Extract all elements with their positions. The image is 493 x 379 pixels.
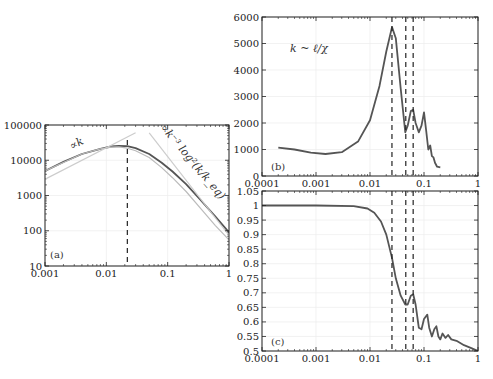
y-tick-label: 0.9 bbox=[243, 229, 259, 240]
y-tick-label: 10 bbox=[29, 261, 42, 272]
x-tick-label: 0.01 bbox=[359, 353, 381, 364]
x-tick-label: 0.1 bbox=[160, 268, 176, 279]
y-tick-label: 2000 bbox=[234, 118, 259, 129]
y-tick-label: 3000 bbox=[234, 91, 259, 102]
y-tick-label: 1 bbox=[253, 200, 259, 211]
y-tick-label: 5000 bbox=[234, 38, 259, 49]
panel-label: (c) bbox=[271, 336, 285, 347]
y-tick-label: 0 bbox=[253, 171, 259, 182]
panel-c-plot: 0.00010.0010.010.110.50.550.60.650.70.75… bbox=[237, 186, 481, 365]
x-tick-label: 0.1 bbox=[416, 178, 432, 189]
figure: 0.0010.010.1110100100010000100000∝k∝k⁻³ … bbox=[0, 0, 493, 379]
x-tick-label: 1 bbox=[475, 178, 481, 189]
panel-label: (b) bbox=[271, 161, 285, 172]
y-tick-label: 0.5 bbox=[243, 346, 259, 357]
x-tick-label: 0.1 bbox=[416, 353, 432, 364]
y-tick-label: 100 bbox=[23, 225, 42, 236]
annotation-label: ∝k bbox=[67, 134, 86, 152]
y-tick-label: 0.7 bbox=[243, 287, 259, 298]
y-tick-label: 1000 bbox=[234, 144, 259, 155]
x-tick-label: 0.01 bbox=[359, 178, 381, 189]
y-tick-label: 0.6 bbox=[243, 316, 259, 327]
x-tick-label: 0.001 bbox=[302, 353, 331, 364]
y-tick-label: 100000 bbox=[4, 120, 42, 131]
annotation-label: k ~ ℓ/χ bbox=[290, 42, 329, 55]
y-tick-label: 0.55 bbox=[237, 331, 259, 342]
y-tick-label: 6000 bbox=[234, 12, 259, 23]
panel-a-plot: 0.0010.010.1110100100010000100000∝k∝k⁻³ … bbox=[4, 120, 232, 280]
x-tick-label: 1 bbox=[475, 353, 481, 364]
y-tick-label: 0.65 bbox=[237, 302, 259, 313]
y-tick-label: 0.85 bbox=[237, 244, 259, 255]
x-tick-label: 1 bbox=[226, 268, 232, 279]
panel-label: (a) bbox=[50, 249, 64, 260]
y-tick-label: 0.95 bbox=[237, 215, 259, 226]
y-tick-label: 10000 bbox=[10, 155, 42, 166]
y-tick-label: 4000 bbox=[234, 65, 259, 76]
y-tick-label: 1000 bbox=[17, 190, 42, 201]
series-asymptote-k-line bbox=[41, 133, 136, 182]
panel-b-plot: 0.00010.0010.010.11010002000300040005000… bbox=[234, 12, 482, 190]
y-tick-label: 0.75 bbox=[237, 273, 259, 284]
x-tick-label: 0.001 bbox=[302, 178, 331, 189]
x-tick-label: 0.01 bbox=[95, 268, 117, 279]
y-tick-label: 1.05 bbox=[237, 186, 259, 197]
y-tick-label: 0.8 bbox=[243, 258, 259, 269]
